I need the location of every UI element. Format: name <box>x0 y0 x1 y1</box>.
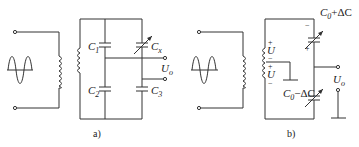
caption-b: b) <box>287 128 295 140</box>
svg-text:C0+ΔC: C0+ΔC <box>320 6 352 21</box>
output-terminal-a1 <box>163 56 166 59</box>
circuit-diagram-figure: C1 C2 Cx C3 Uo a) <box>0 0 359 147</box>
svg-text:Uo: Uo <box>333 73 345 88</box>
svg-text:−: − <box>268 79 273 88</box>
primary-coil-b <box>243 56 246 88</box>
svg-text:Cx: Cx <box>151 40 162 55</box>
output-terminal-b2 <box>336 88 339 91</box>
caption-a: a) <box>93 128 101 140</box>
capacitor-c1 <box>99 43 111 47</box>
circuit-svg: C1 C2 Cx C3 Uo a) <box>0 0 359 147</box>
panel-b: C0+ΔC C0−ΔC + U − + U − − + Uo b) <box>191 6 352 140</box>
ac-source-b <box>191 30 243 109</box>
panel-a: C1 C2 Cx C3 Uo a) <box>7 19 173 140</box>
output-terminal-a2 <box>163 77 166 80</box>
ac-source-a <box>7 30 59 109</box>
svg-text:−: − <box>305 21 310 30</box>
capacitor-c3 <box>136 87 148 91</box>
svg-text:+: + <box>305 44 310 53</box>
output-terminal-b1 <box>336 65 339 68</box>
svg-text:C1: C1 <box>88 40 99 55</box>
svg-text:C3: C3 <box>151 84 162 99</box>
center-tapped-coil-b <box>263 48 266 78</box>
svg-text:Uo: Uo <box>161 62 173 77</box>
capacitor-c2 <box>99 87 111 91</box>
svg-text:C2: C2 <box>88 84 99 99</box>
primary-coil-a <box>59 56 62 88</box>
secondary-coil-a <box>78 48 81 73</box>
